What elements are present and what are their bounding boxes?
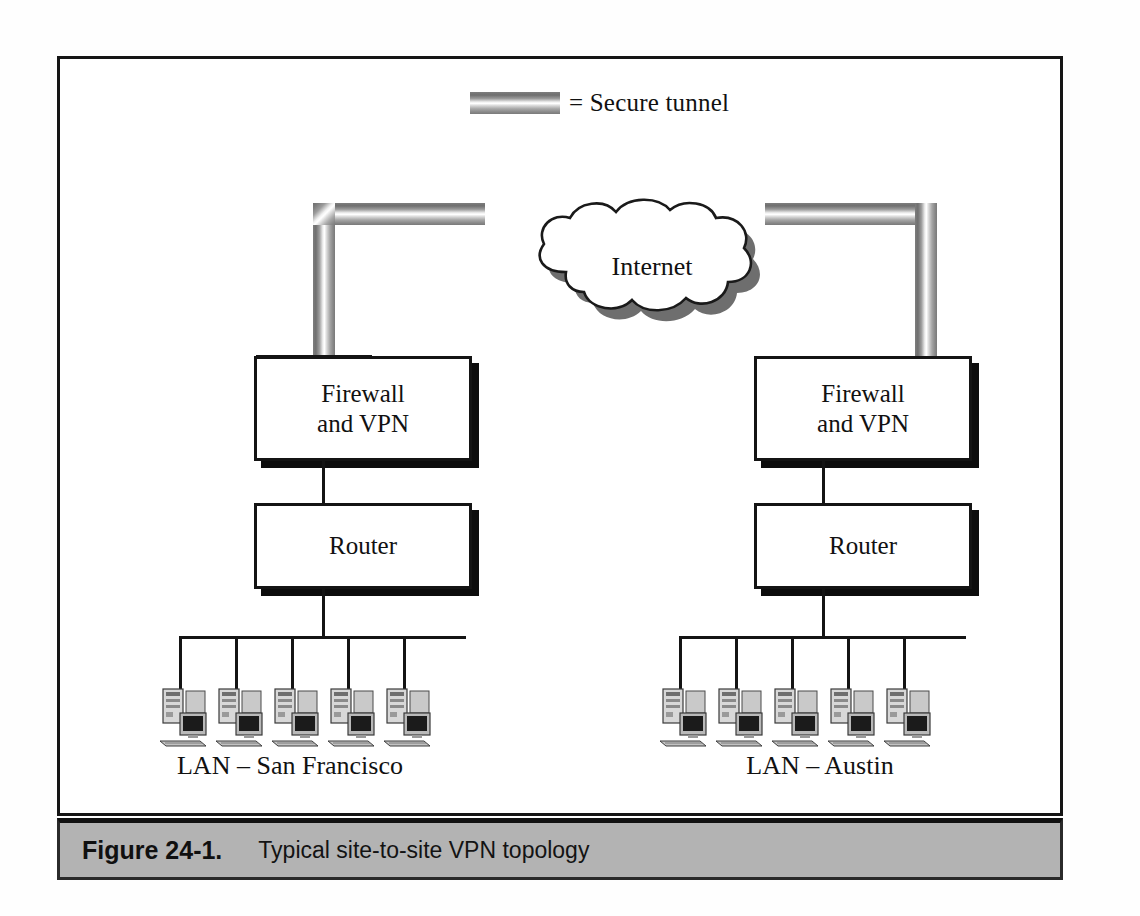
legend: = Secure tunnel [470, 89, 729, 117]
lan-label-austin: LAN – Austin [670, 751, 970, 781]
figure-caption-bar: Figure 24-1. Typical site-to-site VPN to… [57, 818, 1063, 880]
firewall-vpn-box-sf[interactable]: Firewall and VPN [254, 356, 472, 461]
pc-icon-sf-4 [324, 687, 380, 747]
internet-cloud: Internet [512, 194, 792, 342]
figure-caption-text: Typical site-to-site VPN topology [258, 837, 589, 864]
firewall-vpn-box-austin[interactable]: Firewall and VPN [754, 356, 972, 461]
tunnel-pipe-corner-left [313, 203, 335, 225]
lan-bus-sf-right-ext [403, 636, 466, 639]
router-box-austin[interactable]: Router [754, 503, 972, 589]
pc-icon-austin-1 [656, 687, 712, 747]
firewall-vpn-line2-austin: and VPN [817, 410, 909, 437]
figure-frame: = Secure tunnel Internet Firew [57, 56, 1063, 816]
tunnel-pipe-right-vertical [915, 203, 937, 357]
router-label-sf: Router [329, 531, 397, 561]
firewall-vpn-label-austin: Firewall and VPN [817, 379, 909, 438]
pc-icon-austin-2 [712, 687, 768, 747]
legend-label: = Secure tunnel [569, 89, 729, 117]
pc-icon-sf-3 [268, 687, 324, 747]
pc-icon-sf-1 [156, 687, 212, 747]
figure-caption-number: Figure 24-1. [82, 836, 222, 865]
wire-router-bus-austin [822, 589, 825, 636]
firewall-vpn-line1-austin: Firewall [821, 380, 904, 407]
wire-firewall-router-austin [822, 461, 825, 503]
wire-router-bus-sf [322, 589, 325, 636]
tunnel-pipe-left-horizontal [335, 203, 485, 225]
firewall-vpn-line2-sf: and VPN [317, 410, 409, 437]
router-label-austin: Router [829, 531, 897, 561]
firewall-vpn-label-sf: Firewall and VPN [317, 379, 409, 438]
internet-cloud-label: Internet [512, 252, 792, 282]
tunnel-pipe-left-vertical [313, 203, 335, 357]
pc-icon-sf-5 [380, 687, 436, 747]
pc-icon-austin-3 [768, 687, 824, 747]
secure-tunnel-swatch-icon [470, 92, 560, 114]
lan-label-san-francisco: LAN – San Francisco [140, 751, 440, 781]
pc-icon-austin-5 [880, 687, 936, 747]
router-box-sf[interactable]: Router [254, 503, 472, 589]
figure-page: = Secure tunnel Internet Firew [0, 0, 1140, 916]
wire-firewall-router-sf [322, 461, 325, 503]
lan-bus-austin-right-ext [903, 636, 966, 639]
firewall-vpn-line1-sf: Firewall [321, 380, 404, 407]
pc-icon-sf-2 [212, 687, 268, 747]
pc-icon-austin-4 [824, 687, 880, 747]
